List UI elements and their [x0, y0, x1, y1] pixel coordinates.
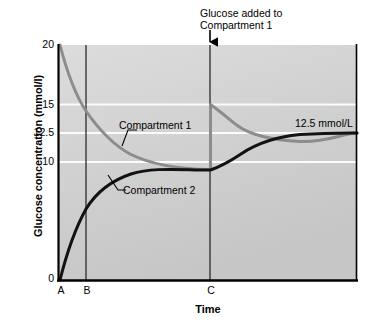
x-tick-label-a: A [53, 284, 69, 296]
glucose-added-line-1: Glucose added to [200, 7, 282, 19]
glucose-added-line-2: Compartment 1 [200, 19, 272, 31]
y-tick-label-20: 20 [20, 38, 54, 50]
y-tick-label-15: 15 [20, 98, 54, 110]
x-tick-label-b: B [79, 284, 95, 296]
y-tick-label-10: 10 [20, 155, 54, 167]
x-axis-title: Time [160, 303, 256, 315]
x-tick-label-c: C [203, 284, 219, 296]
compartment-2-label: Compartment 2 [123, 184, 195, 196]
glucose-diffusion-chart-figure: Glucose concentration (mmol/l) Time 20 1… [0, 0, 374, 323]
plateau-value-label: 12.5 mmol/L [295, 117, 353, 129]
y-tick-label-12-5: 12.5 [14, 126, 54, 138]
compartment-1-label: Compartment 1 [119, 119, 191, 131]
chart-plot-svg [0, 0, 374, 323]
y-tick-label-0: 0 [20, 272, 54, 284]
